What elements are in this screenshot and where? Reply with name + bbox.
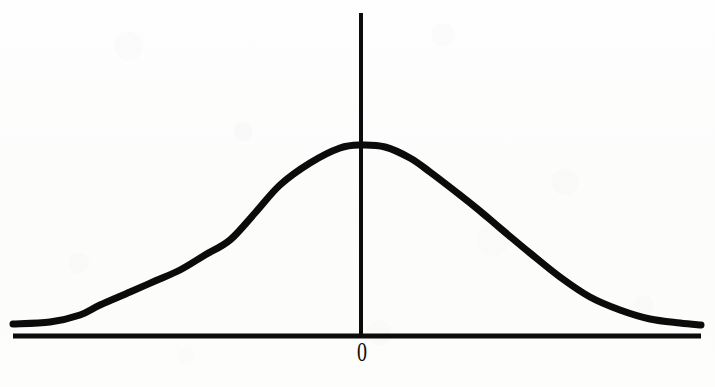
normal-distribution-curve xyxy=(13,145,701,325)
plot-canvas xyxy=(0,0,715,387)
x-axis-tick-label-zero: 0 xyxy=(347,339,377,366)
bell-curve-figure: 0 xyxy=(0,0,715,387)
